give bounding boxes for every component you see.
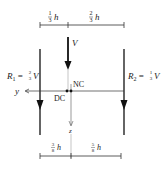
top-dim-2-var: h xyxy=(95,12,100,22)
reaction-r1: R1 = 2 3 V xyxy=(6,49,44,135)
dc-label: DC xyxy=(54,94,65,103)
reaction-r2: R2 = 1 3 V xyxy=(121,49,162,135)
z-axis-label: z xyxy=(68,127,72,135)
z-axis: z xyxy=(68,84,73,158)
top-dimension: 1 3 h 2 3 h xyxy=(40,10,124,28)
r2-num: 1 xyxy=(150,70,153,75)
top-dim-1-num: 1 xyxy=(49,10,52,16)
y-axis-label: y xyxy=(14,86,19,96)
dc-point xyxy=(66,90,69,93)
bottom-dimension: 3 8 h 5 8 h xyxy=(40,142,121,159)
bot-dim-2-num: 5 xyxy=(92,142,95,147)
top-dim-1-var: h xyxy=(54,12,59,22)
r2-var: V xyxy=(154,71,161,81)
bot-dim-2-var: h xyxy=(97,143,101,152)
nc-point xyxy=(70,90,73,93)
centers: NC DC xyxy=(54,80,84,103)
r1-label: R1 = xyxy=(6,71,23,82)
r2-label: R2 = xyxy=(127,71,144,82)
r1-num: 2 xyxy=(29,70,32,75)
top-dim-1-den: 3 xyxy=(49,17,52,23)
r2-den: 3 xyxy=(150,76,153,81)
y-axis: y xyxy=(14,86,124,96)
load-label: V xyxy=(72,38,79,48)
bot-dim-1-num: 3 xyxy=(52,142,55,147)
diagram-canvas: 1 3 h 2 3 h V R1 = 2 3 V R2 = 1 3 V y xyxy=(0,0,166,169)
top-dim-2-den: 3 xyxy=(90,17,93,23)
bot-dim-2-den: 8 xyxy=(92,148,95,153)
nc-label: NC xyxy=(73,80,84,89)
r1-var: V xyxy=(33,71,40,81)
top-dim-2-num: 2 xyxy=(90,10,93,16)
bot-dim-1-den: 8 xyxy=(52,148,55,153)
r1-den: 3 xyxy=(29,76,32,81)
bot-dim-1-var: h xyxy=(57,143,61,152)
